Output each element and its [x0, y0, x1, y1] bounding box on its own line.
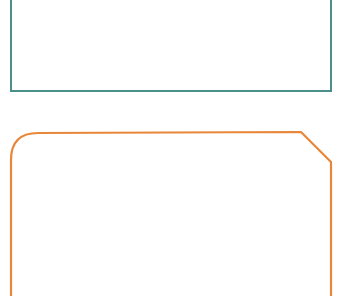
- orange-panel-frame: [0, 0, 343, 296]
